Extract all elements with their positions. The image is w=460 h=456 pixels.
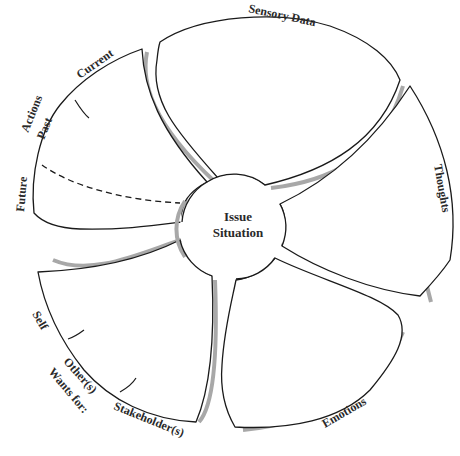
center-label-line1: Issue bbox=[224, 209, 252, 224]
issue-situation-diagram: Issue Situation Sensory Data Thoughts Em… bbox=[0, 0, 460, 456]
label-wants-self: Self bbox=[29, 309, 51, 334]
center-label-line2: Situation bbox=[213, 225, 264, 240]
label-actions-future: Future bbox=[13, 175, 30, 212]
